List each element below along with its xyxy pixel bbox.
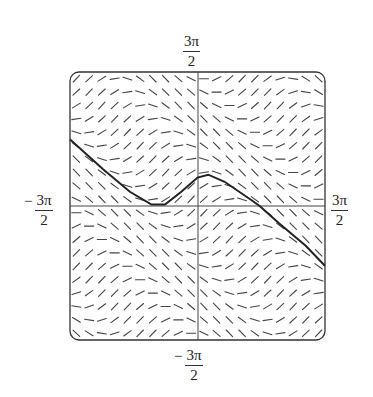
x-max-label: 3π2 — [331, 193, 348, 228]
x-min-label: −3π2 — [24, 193, 53, 228]
x-min-num: 3π — [35, 193, 52, 211]
x-min-sign: − — [24, 194, 32, 209]
y-min-den: 2 — [190, 366, 198, 383]
x-min-den: 2 — [40, 211, 48, 228]
y-min-num: 3π — [185, 348, 202, 366]
y-max-den: 2 — [188, 52, 196, 69]
x-max-den: 2 — [336, 211, 344, 228]
y-max-label: 3π2 — [183, 34, 200, 69]
y-min-sign: − — [174, 349, 182, 364]
x-max-num: 3π — [331, 193, 348, 211]
y-max-num: 3π — [183, 34, 200, 52]
y-min-label: −3π2 — [174, 348, 203, 383]
